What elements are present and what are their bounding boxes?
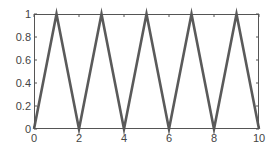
y-tick-label: 0	[25, 123, 31, 135]
x-tick-label: 2	[76, 132, 82, 144]
y-tick-label: 0.2	[16, 100, 31, 112]
line-chart: 0246810 00.20.40.60.81	[0, 0, 275, 152]
y-tick-label: 0.8	[16, 31, 31, 43]
x-tick-label: 10	[253, 132, 265, 144]
x-tick-label: 6	[166, 132, 172, 144]
y-tick-label: 0.4	[16, 77, 31, 89]
x-tick-label: 8	[211, 132, 217, 144]
x-tick-label: 0	[31, 132, 37, 144]
y-tick-label: 1	[25, 8, 31, 20]
x-tick-label: 4	[121, 132, 127, 144]
y-tick-label: 0.6	[16, 54, 31, 66]
